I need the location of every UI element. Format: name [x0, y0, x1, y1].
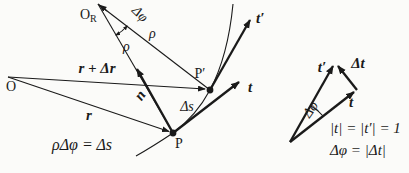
- origin-label: O: [6, 79, 16, 94]
- delta-phi-equation: Δφ = |Δt|: [329, 142, 386, 158]
- curvature-center-subscript: R: [90, 13, 97, 24]
- radius-line-to-p-prime: [98, 4, 210, 90]
- figure-canvas: O O R P P′ Δφ ρ ρ r + Δr r n Δs t t′ ρΔφ…: [0, 0, 409, 173]
- delta-phi-arc: [116, 26, 127, 35]
- curvature-diagram: O O R P P′ Δφ ρ ρ r + Δr r n Δs t t′ ρΔφ…: [0, 0, 409, 173]
- point-p-prime-label: P′: [195, 66, 206, 81]
- r-plus-dr-label: r + Δr: [78, 60, 115, 76]
- r-label: r: [86, 107, 92, 123]
- delta-s-label: Δs: [179, 99, 194, 114]
- unit-magnitude-equation: |t| = |t′| = 1: [330, 120, 401, 136]
- right-tangent-label: t: [349, 94, 354, 110]
- normal-label: n: [131, 87, 149, 103]
- delta-phi-label: Δφ: [129, 2, 152, 25]
- right-delta-phi-label: Δφ: [299, 98, 321, 121]
- right-tangent-prime-label: t′: [318, 59, 326, 75]
- tangent-label: t: [248, 79, 253, 95]
- rho-label-lower: ρ: [122, 39, 130, 54]
- rho-label-upper: ρ: [148, 26, 156, 41]
- point-p-prime-dot: [207, 87, 214, 94]
- right-delta-t-label: Δt: [350, 55, 365, 71]
- point-p-label: P: [175, 136, 183, 151]
- curvature-center-label: O: [80, 7, 90, 22]
- arc-length-equation: ρΔφ = Δs: [51, 136, 112, 154]
- tangent-prime-label: t′: [256, 10, 264, 26]
- tangent-vector-t-prime: [210, 20, 250, 90]
